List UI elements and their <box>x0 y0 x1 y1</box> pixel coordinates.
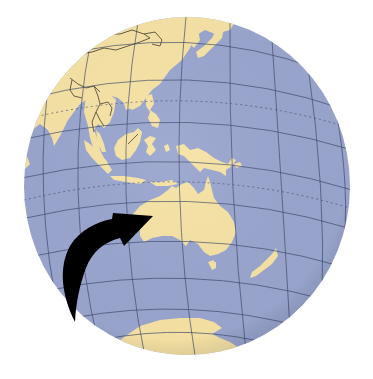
globe-figure: Orthographic globe centered on Australia… <box>0 0 373 379</box>
globe-svg <box>0 0 373 379</box>
